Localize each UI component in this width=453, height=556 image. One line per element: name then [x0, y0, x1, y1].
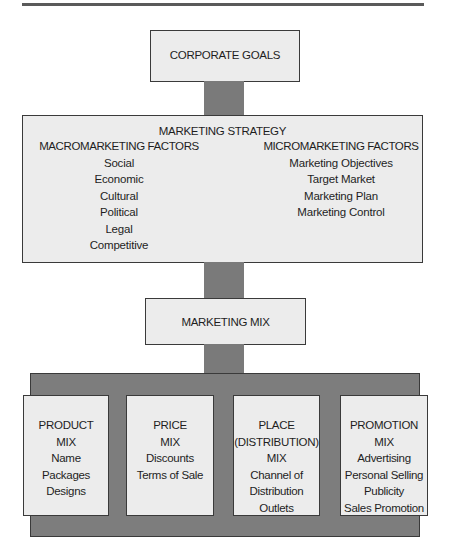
promotion-mix-box: PROMOTION MIX Advertising Personal Selli… [340, 395, 428, 516]
connector-mix-panel [204, 344, 244, 376]
price-mix-item: Discounts [127, 450, 213, 467]
product-mix-box: PRODUCT MIX Name Packages Designs [23, 395, 109, 516]
promotion-mix-item: Publicity [341, 483, 427, 500]
macro-item: Economic [29, 171, 209, 188]
micro-heading: MICROMARKETING FACTORS [259, 138, 423, 155]
price-mix-item: Terms of Sale [127, 467, 213, 484]
marketing-mix-box: MARKETING MIX [145, 298, 306, 345]
product-mix-item: Packages [24, 467, 108, 484]
micromarketing-factors: MICROMARKETING FACTORS Marketing Objecti… [259, 138, 423, 221]
promotion-mix-title: PROMOTION [341, 417, 427, 434]
price-mix-title: PRICE [127, 417, 213, 434]
micro-item: Marketing Objectives [259, 155, 423, 172]
promotion-mix-title: MIX [341, 434, 427, 451]
micro-item: Target Market [259, 171, 423, 188]
macro-item: Political [29, 204, 209, 221]
macro-item: Cultural [29, 188, 209, 205]
place-mix-item: Distribution [234, 483, 319, 500]
place-mix-item: Outlets [234, 500, 319, 517]
price-mix-title: MIX [127, 434, 213, 451]
marketing-mix-label: MARKETING MIX [146, 316, 305, 328]
place-mix-box: PLACE (DISTRIBUTION) MIX Channel of Dist… [233, 395, 320, 516]
promotion-mix-item: Personal Selling [341, 467, 427, 484]
macromarketing-factors: MACROMARKETING FACTORS Social Economic C… [29, 138, 209, 254]
top-rule [22, 3, 424, 6]
macro-item: Legal [29, 221, 209, 238]
marketing-strategy-box: MARKETING STRATEGY MACROMARKETING FACTOR… [22, 115, 423, 263]
place-mix-title: (DISTRIBUTION) [234, 434, 319, 451]
place-mix-title: PLACE [234, 417, 319, 434]
macro-item: Competitive [29, 237, 209, 254]
promotion-mix-item: Advertising [341, 450, 427, 467]
product-mix-item: Name [24, 450, 108, 467]
corporate-goals-label: CORPORATE GOALS [151, 49, 299, 61]
micro-item: Marketing Plan [259, 188, 423, 205]
connector-goals-strategy [204, 81, 244, 116]
place-mix-item: Channel of [234, 467, 319, 484]
macro-item: Social [29, 155, 209, 172]
product-mix-item: Designs [24, 483, 108, 500]
product-mix-title: MIX [24, 434, 108, 451]
promotion-mix-item: Sales Promotion [341, 500, 427, 517]
marketing-strategy-title: MARKETING STRATEGY [23, 125, 422, 137]
corporate-goals-box: CORPORATE GOALS [150, 30, 300, 82]
price-mix-box: PRICE MIX Discounts Terms of Sale [126, 395, 214, 516]
macro-heading: MACROMARKETING FACTORS [29, 138, 209, 155]
product-mix-title: PRODUCT [24, 417, 108, 434]
micro-item: Marketing Control [259, 204, 423, 221]
place-mix-title: MIX [234, 450, 319, 467]
